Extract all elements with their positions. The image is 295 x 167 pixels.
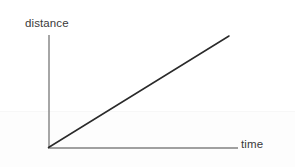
- y-axis-label: distance: [25, 17, 69, 29]
- x-axis-label: time: [241, 138, 263, 150]
- data-line-distance-vs-time: [49, 36, 230, 148]
- distance-time-graph-figure: distance time: [0, 0, 295, 167]
